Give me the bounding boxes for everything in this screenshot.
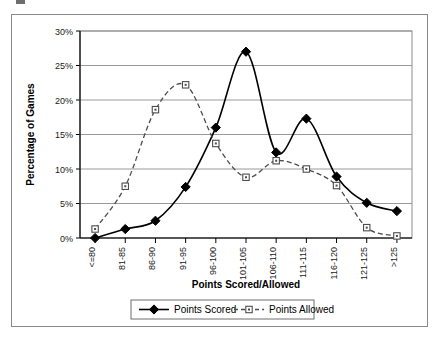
x-tick-label: 106-110 — [268, 247, 278, 279]
x-tick-label: 111-115 — [298, 247, 308, 278]
y-tick-label: 5% — [60, 199, 73, 209]
x-axis-title: Points Scored/Allowed — [192, 279, 300, 290]
data-point-marker-center — [366, 227, 368, 229]
legend: Points ScoredPoints Allowed — [131, 300, 334, 319]
x-tick-label: 116-120 — [329, 247, 339, 279]
figure-container: 0%5%10%15%20%25%30%<=8081-8586-9091-9596… — [0, 0, 440, 339]
legend-label: Points Scored — [174, 304, 236, 315]
x-tick-label: 101-105 — [238, 247, 248, 280]
x-tick-label: 96-100 — [208, 247, 218, 275]
y-tick-label: 0% — [60, 234, 73, 244]
y-tick-label: 20% — [55, 96, 73, 106]
line-chart: 0%5%10%15%20%25%30%<=8081-8586-9091-9596… — [0, 0, 440, 339]
legend-marker-center — [248, 309, 250, 311]
data-point-marker-center — [154, 109, 156, 111]
y-tick-label: 10% — [55, 165, 73, 175]
data-point-marker-center — [185, 84, 187, 86]
data-point-marker-center — [124, 185, 126, 187]
x-tick-label: 121-125 — [359, 247, 369, 280]
data-point-marker-center — [275, 160, 277, 162]
data-point-marker-center — [245, 176, 247, 178]
x-tick-label: 91-95 — [178, 247, 188, 270]
x-tick-label: >125 — [389, 247, 399, 267]
data-point-marker-center — [305, 168, 307, 170]
x-tick-label: 86-90 — [147, 247, 157, 270]
legend-label: Points Allowed — [269, 304, 334, 315]
y-axis-title: Percentage of Games — [25, 83, 36, 186]
data-point-marker-center — [336, 185, 338, 187]
x-tick-label: <=80 — [87, 247, 97, 268]
data-point-marker-center — [396, 235, 398, 237]
data-point-marker-center — [215, 142, 217, 144]
x-tick-label: 81-85 — [117, 247, 127, 270]
data-point-marker-center — [94, 228, 96, 230]
y-tick-label: 25% — [55, 61, 73, 71]
y-tick-label: 15% — [55, 130, 73, 140]
x-axis-labels: <=8081-8586-9091-9596-100101-105106-1101… — [87, 238, 399, 280]
y-tick-label: 30% — [55, 27, 73, 37]
legend-item-1[interactable]: Points Scored — [139, 304, 236, 315]
